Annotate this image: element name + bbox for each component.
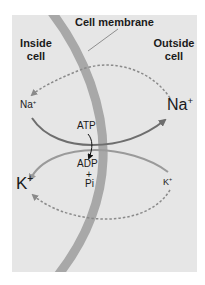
inside-label-line2: cell — [18, 51, 54, 62]
inside-label-line1: Inside — [18, 38, 54, 49]
outside-label-line2: cell — [152, 51, 196, 62]
pi-label: Pi — [85, 179, 94, 189]
na-outside-label: Na+ — [167, 97, 193, 113]
na-inside-label: Na+ — [20, 100, 36, 110]
k-inside-label: K+ — [16, 175, 33, 192]
outside-cell-label: Outside cell — [152, 38, 196, 62]
cell-membrane-band — [50, 10, 103, 285]
atp-label: ATP — [77, 121, 96, 131]
atp-to-adp-arrow — [88, 134, 92, 158]
adp-label: ADP — [77, 159, 98, 169]
na-return-dashed-arrow — [32, 65, 170, 98]
k-outside-label: K+ — [163, 178, 172, 187]
outside-label-line1: Outside — [152, 38, 196, 49]
inside-cell-label: Inside cell — [18, 38, 54, 62]
membrane-label: Cell membrane — [75, 17, 154, 28]
membrane-leader-line — [88, 29, 118, 51]
